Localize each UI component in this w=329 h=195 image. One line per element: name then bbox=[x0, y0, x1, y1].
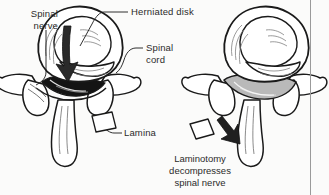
right-panel-vertebra bbox=[182, 7, 327, 167]
removal-arrow bbox=[217, 116, 240, 144]
right-divider-rule bbox=[310, 0, 311, 195]
caption-line-1: Laminotomy bbox=[136, 153, 264, 165]
caption-line-3: spinal nerve bbox=[136, 177, 264, 189]
label-spinal-cord: Spinal cord bbox=[146, 42, 198, 65]
label-lamina: Lamina bbox=[124, 127, 156, 139]
medical-illustration-figure: Spinal nerve Herniated disk Spinal cord … bbox=[0, 0, 329, 195]
figure-caption: Laminotomy decompresses spinal nerve bbox=[136, 153, 264, 188]
label-spinal-nerve: Spinal nerve bbox=[6, 8, 58, 31]
lamina-outline-left bbox=[92, 112, 116, 132]
caption-line-2: decompresses bbox=[136, 165, 264, 177]
removed-lamina-fragment bbox=[190, 119, 214, 139]
label-herniated-disk: Herniated disk bbox=[131, 6, 194, 18]
